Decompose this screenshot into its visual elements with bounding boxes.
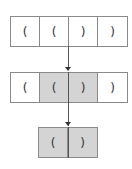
cell-close-paren: ): [69, 17, 98, 46]
match-row: ( ( ) ): [10, 72, 128, 103]
cell-open-paren-matched: (: [40, 73, 69, 102]
arrow-line-result: [68, 127, 69, 158]
arrow-line-1: [68, 46, 69, 68]
cell-open-paren-result: (: [39, 128, 68, 157]
cell-open-paren: (: [11, 17, 40, 46]
cell-close-paren: ): [98, 73, 127, 102]
arrow-line-center: [68, 72, 69, 126]
arrow-head-down-icon: [65, 122, 71, 126]
cell-close-paren: ): [98, 17, 127, 46]
arrow-head-down-icon: [65, 67, 71, 71]
cell-open-paren: (: [11, 73, 40, 102]
cell-close-paren-matched: ): [69, 73, 98, 102]
cell-close-paren-result: ): [68, 128, 97, 157]
cell-open-paren: (: [40, 17, 69, 46]
input-row: ( ( ) ): [10, 16, 128, 47]
